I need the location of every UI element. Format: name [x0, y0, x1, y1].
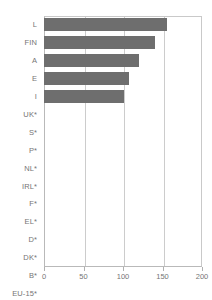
y-axis-label-row: DK* — [0, 249, 41, 267]
y-axis-label-IRLstar: IRL* — [22, 183, 37, 191]
x-tick-mark-0 — [44, 267, 45, 271]
bar-I[interactable] — [44, 90, 124, 103]
y-axis-label-row: I — [0, 88, 41, 106]
bar-row — [44, 34, 202, 52]
y-axis-label-row: B* — [0, 267, 41, 285]
x-tick-mark-150 — [163, 267, 164, 271]
y-axis-label-NLstar: NL* — [24, 165, 37, 173]
y-axis-label-row: IRL* — [0, 177, 41, 195]
bars-layer — [44, 16, 202, 267]
bar-row — [44, 285, 202, 300]
bar-row — [44, 124, 202, 142]
y-axis-label-row: EL* — [0, 213, 41, 231]
y-axis-label-Pstar: P* — [29, 147, 37, 155]
y-axis-label-Sstar: S* — [29, 129, 37, 137]
x-tick-label: 100 — [117, 273, 130, 281]
x-tick-mark-200 — [202, 267, 203, 271]
bar-chart: LFINAEIUK*S*P*NL*IRL*F*EL*D*DK*B*EU-15* … — [0, 0, 212, 300]
x-tick-label: 50 — [79, 273, 87, 281]
bar-row — [44, 177, 202, 195]
bar-FIN[interactable] — [44, 36, 155, 49]
x-tick-label: 0 — [42, 273, 46, 281]
y-axis-label-E: E — [32, 75, 37, 83]
y-axis-label-Bstar: B* — [29, 272, 37, 280]
bar-L[interactable] — [44, 18, 167, 31]
x-tick-label: 150 — [156, 273, 169, 281]
y-axis-label-A: A — [32, 57, 37, 65]
y-axis-label-DKstar: DK* — [23, 254, 37, 262]
y-axis-label-row: L — [0, 16, 41, 34]
y-axis-label-L: L — [33, 21, 37, 29]
bar-row — [44, 159, 202, 177]
y-axis-label-FIN: FIN — [25, 39, 37, 47]
y-axis-label-row: UK* — [0, 106, 41, 124]
y-axis-label-UKstar: UK* — [23, 111, 37, 119]
y-axis-label-row: A — [0, 52, 41, 70]
y-axis-label-row: EU-15* — [0, 285, 41, 300]
y-axis-category-labels: LFINAEIUK*S*P*NL*IRL*F*EL*D*DK*B*EU-15* — [0, 16, 41, 267]
bar-row — [44, 88, 202, 106]
y-axis-label-row: FIN — [0, 34, 41, 52]
y-axis-label-row: F* — [0, 195, 41, 213]
bar-E[interactable] — [44, 72, 129, 85]
bar-row — [44, 195, 202, 213]
bar-row — [44, 141, 202, 159]
x-tick-mark-50 — [84, 267, 85, 271]
y-axis-label-row: S* — [0, 124, 41, 142]
x-tick-label: 200 — [196, 273, 209, 281]
bar-A[interactable] — [44, 54, 139, 67]
y-axis-label-Dstar: D* — [28, 236, 37, 244]
bar-row — [44, 52, 202, 70]
y-axis-label-row: NL* — [0, 159, 41, 177]
y-axis-label-I: I — [35, 93, 37, 101]
y-axis-label-row: E — [0, 70, 41, 88]
y-axis-label-Fstar: F* — [29, 200, 37, 208]
y-axis-label-row: D* — [0, 231, 41, 249]
x-tick-mark-100 — [123, 267, 124, 271]
bar-row — [44, 106, 202, 124]
bar-row — [44, 70, 202, 88]
y-axis-label-EU15star: EU-15* — [12, 290, 37, 298]
y-axis-label-ELstar: EL* — [25, 218, 37, 226]
y-axis-label-row: P* — [0, 141, 41, 159]
bar-row — [44, 231, 202, 249]
bar-row — [44, 16, 202, 34]
bar-row — [44, 213, 202, 231]
bar-row — [44, 249, 202, 267]
